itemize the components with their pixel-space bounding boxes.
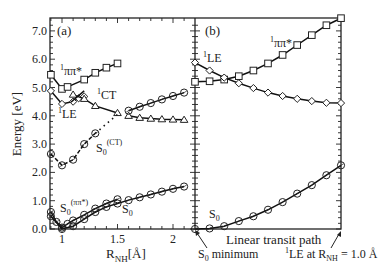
circle-marker-slash [295,192,300,195]
s0-minimum-annotation: S0 minimum [198,247,259,263]
circle-marker-slash [266,208,271,211]
x-axis-label-b: Linear transit path [226,232,322,247]
label-le-a: 1LE [58,106,77,121]
diamond-marker [235,80,242,87]
square-marker [48,71,55,78]
label-pipi-b: 1ππ* [270,35,292,50]
circle-marker-slash [71,158,76,161]
diamond-marker [294,95,301,102]
diamond-marker [279,92,286,99]
label-ct: 1CT [97,87,117,102]
triangle-marker [92,102,100,108]
x-tick-label: 1.5 [110,232,125,246]
square-marker [250,67,257,74]
square-marker [265,60,272,67]
energy-chart: 0.01.02.03.04.05.06.07.011.52 Energy [eV… [0,0,389,274]
series-line [195,63,341,104]
circle-marker-slash [280,201,285,204]
label-s0-a: S0 [122,202,133,218]
label-s0-ct: S0(CT) [96,138,123,157]
diamond-marker [250,84,257,91]
x-tick-label: 1 [59,232,65,246]
dotted-connector [95,114,117,133]
series-line [51,133,95,165]
y-tick-label: 1.0 [32,194,47,208]
square-marker [192,79,199,86]
panel-a-tag: (a) [57,23,71,38]
label-pipi-a: 1ππ* [60,63,82,78]
y-tick-label: 4.0 [32,109,47,123]
axes-layer: 0.01.02.03.04.05.06.07.011.52 [32,18,341,246]
square-marker [294,42,301,49]
le-endpoint-annotation: 1LE at RNH = 1.0 Å [285,246,378,263]
square-marker [103,64,110,71]
square-marker [92,69,99,76]
x-axis-label-a: RNH[Å] [106,246,146,264]
square-marker [64,84,71,91]
y-tick-label: 3.0 [32,137,47,151]
square-marker [309,32,316,39]
panel-b-tag: (b) [205,23,220,38]
diamond-marker [206,67,213,74]
square-marker [206,78,213,85]
label-s0-b: S0 [209,207,220,223]
square-marker [338,15,345,22]
circle-marker-slash [82,143,87,146]
y-tick-label: 2.0 [32,165,47,179]
triangle-marker [69,91,77,97]
circle-marker-slash [324,174,329,177]
y-axis-label: Energy [eV] [9,92,24,156]
diamond-marker [323,99,330,106]
le-endpoint-arrow [331,234,339,248]
s0-minimum-arrow [197,233,207,248]
circle-marker-slash [71,219,76,222]
circle-marker-slash [309,184,314,187]
diamond-marker [337,99,344,106]
y-tick-label: 7.0 [32,24,47,38]
y-tick-label: 0.0 [32,222,47,236]
diamond-marker [308,97,315,104]
y-tick-label: 5.0 [32,81,47,95]
square-marker [114,60,121,67]
diamond-marker [264,89,271,96]
square-marker [323,22,330,29]
label-le-b: 1LE [203,50,222,65]
y-tick-label: 6.0 [32,52,47,66]
square-marker [279,52,286,59]
series-line [129,93,185,111]
x-tick-label: 2 [170,232,176,246]
square-marker [236,73,243,80]
